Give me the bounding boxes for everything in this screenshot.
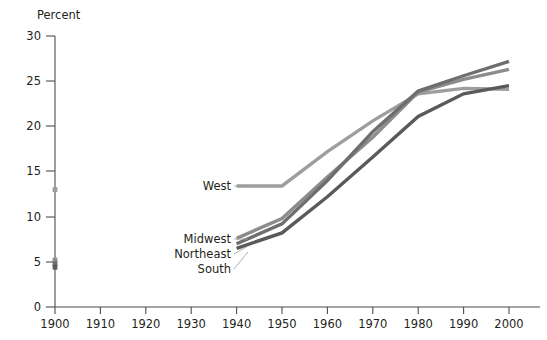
x-tick-label-1920: 1920 (131, 317, 160, 331)
y-tick-label-25: 25 (26, 74, 41, 88)
x-tick-label-2000: 2000 (494, 317, 523, 331)
marker-1900-south (53, 265, 58, 270)
x-tick-label-1930: 1930 (177, 317, 206, 331)
x-tick-label-1950: 1950 (267, 317, 296, 331)
y-axis-title: Percent (37, 8, 81, 22)
x-tick-label-1940: 1940 (222, 317, 251, 331)
leader-south (234, 252, 248, 269)
series-lines (237, 61, 509, 248)
y-tick-label-0: 0 (34, 300, 41, 314)
x-tick-label-1910: 1910 (86, 317, 115, 331)
series-label-northeast: Northeast (174, 247, 231, 261)
marker-1900-west (53, 187, 58, 192)
y-tick-label-5: 5 (34, 255, 41, 269)
x-tick-label-1980: 1980 (404, 317, 433, 331)
series-label-south: South (198, 262, 231, 276)
y-tick-label-10: 10 (26, 210, 41, 224)
x-tick-label-1900: 1900 (40, 317, 69, 331)
series-label-midwest: Midwest (184, 232, 232, 246)
x-axis: 1900 1910 1920 1930 1940 1950 1960 1970 … (40, 307, 540, 331)
x-tick-label-1970: 1970 (358, 317, 387, 331)
y-tick-label-15: 15 (26, 164, 41, 178)
chart-container: Percent 30 25 20 15 10 5 0 (0, 0, 547, 340)
series-annotations: West Midwest Northeast South (174, 179, 248, 276)
series-label-west: West (203, 179, 232, 193)
series-line-midwest (237, 69, 509, 238)
x-tick-label-1960: 1960 (313, 317, 342, 331)
y-tick-label-30: 30 (26, 29, 41, 43)
line-chart: Percent 30 25 20 15 10 5 0 (0, 0, 547, 340)
x-tick-label-1990: 1990 (449, 317, 478, 331)
y-axis: 30 25 20 15 10 5 0 (26, 29, 55, 314)
series-line-south (237, 86, 509, 249)
y-tick-label-20: 20 (26, 119, 41, 133)
